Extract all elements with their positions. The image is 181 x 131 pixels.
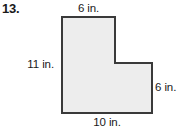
l-shape-outline [62,17,152,113]
dimension-label-bottom: 10 in. [62,116,152,128]
dimension-label-left: 11 in. [0,58,57,70]
exercise-figure-13: 13. 6 in. 11 in. 6 in. 10 in. [0,0,181,131]
dimension-label-top: 6 in. [62,2,115,14]
dimension-label-right: 6 in. [155,81,176,93]
